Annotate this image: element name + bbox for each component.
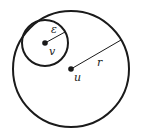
label-u: u bbox=[74, 71, 81, 84]
label-r: r bbox=[97, 56, 103, 69]
radius-r-line bbox=[71, 40, 121, 69]
center-u-dot bbox=[68, 66, 74, 72]
label-epsilon: ε bbox=[51, 23, 57, 36]
center-v-dot bbox=[42, 40, 48, 46]
diagram-canvas: ε v u r bbox=[0, 0, 141, 139]
label-v: v bbox=[49, 45, 56, 58]
